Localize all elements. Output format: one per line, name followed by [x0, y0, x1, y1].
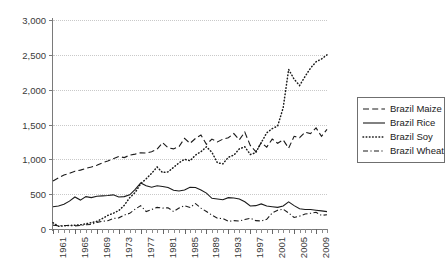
x-axis-tick [322, 229, 323, 233]
x-axis-tick [97, 229, 98, 234]
x-axis-tick [168, 229, 169, 233]
x-axis-tick [69, 229, 70, 233]
x-axis-tick [250, 229, 251, 234]
x-axis-tick [300, 229, 301, 233]
x-axis-tick [190, 229, 191, 233]
x-axis-tick [86, 229, 87, 233]
x-axis-tick [80, 229, 81, 233]
x-axis-tick [327, 229, 328, 233]
x-axis-tick [245, 229, 246, 233]
legend-item-brazil-wheat[interactable]: Brazil Wheat [362, 144, 441, 158]
x-axis-tick-label: 2005 [298, 237, 309, 258]
x-axis-tick [201, 229, 202, 233]
x-axis-tick [119, 229, 120, 234]
x-axis-tick [217, 229, 218, 233]
legend-swatch-dotted-icon [362, 132, 386, 142]
x-axis-tick [283, 229, 284, 233]
legend-item-brazil-rice[interactable]: Brazil Rice [362, 116, 441, 130]
x-axis-tick [179, 229, 180, 233]
x-axis-tick [234, 229, 235, 233]
legend-item-brazil-soy[interactable]: Brazil Soy [362, 130, 441, 144]
legend-label: Brazil Rice [390, 116, 435, 130]
x-axis-tick [305, 229, 306, 233]
series-container [53, 20, 327, 229]
plot-area: 1961196519691973197719811985198919931997… [53, 20, 327, 229]
x-axis-tick [102, 229, 103, 233]
x-axis-tick-label: 1997 [254, 237, 265, 258]
x-axis-tick [239, 229, 240, 233]
y-axis-tick-label: 3,000 [22, 15, 46, 26]
x-axis-tick [108, 229, 109, 233]
x-axis-tick [316, 229, 317, 234]
x-axis-tick [272, 229, 273, 234]
x-axis-tick-label: 1961 [57, 237, 68, 258]
chart-legend: Brazil MaizeBrazil RiceBrazil SoyBrazil … [357, 97, 445, 163]
series-line-brazil-maize [53, 128, 327, 181]
x-axis-tick [311, 229, 312, 233]
x-axis-tick-label: 1981 [167, 237, 178, 258]
legend-item-brazil-maize[interactable]: Brazil Maize [362, 102, 441, 116]
x-axis-tick [113, 229, 114, 233]
y-axis-tick-label: 500 [30, 189, 46, 200]
x-axis-tick [278, 229, 279, 233]
x-axis-tick [223, 229, 224, 233]
x-axis-tick [141, 229, 142, 234]
y-axis-tick-label: 2,500 [22, 49, 46, 60]
y-axis-tick-label: 1,500 [22, 119, 46, 130]
series-line-brazil-soy [53, 55, 327, 226]
x-axis-tick [185, 229, 186, 234]
legend-swatch-dash-dot-icon [362, 146, 386, 156]
x-axis-tick-label: 2001 [276, 237, 287, 258]
x-axis-tick [135, 229, 136, 233]
x-axis-tick [152, 229, 153, 233]
x-axis-tick [124, 229, 125, 233]
legend-label: Brazil Maize [390, 102, 442, 116]
x-axis-tick [91, 229, 92, 233]
x-axis-tick-label: 1993 [232, 237, 243, 258]
x-axis-tick [256, 229, 257, 233]
y-axis-tick-label: 0 [41, 224, 46, 235]
x-axis-tick [212, 229, 213, 233]
line-chart: 05001,0001,5002,0002,5003,000 1961196519… [0, 0, 447, 277]
legend-label: Brazil Wheat [390, 144, 444, 158]
x-axis-tick [75, 229, 76, 234]
x-axis-tick-label: 1973 [123, 237, 134, 258]
x-axis-tick [206, 229, 207, 234]
x-axis-tick [130, 229, 131, 233]
x-axis-tick [163, 229, 164, 234]
x-axis-tick [53, 229, 54, 234]
y-axis-tick-label: 1,000 [22, 154, 46, 165]
x-axis-tick-label: 1989 [210, 237, 221, 258]
x-axis-tick [294, 229, 295, 234]
legend-label: Brazil Soy [390, 130, 433, 144]
x-axis-tick-label: 1969 [101, 237, 112, 258]
x-axis-tick-label: 1965 [79, 237, 90, 258]
x-axis-tick-label: 1977 [145, 237, 156, 258]
x-axis-tick-label: 2009 [320, 237, 331, 258]
x-axis-tick [64, 229, 65, 233]
x-axis-tick-label: 1985 [189, 237, 200, 258]
legend-swatch-solid-icon [362, 118, 386, 128]
x-axis-tick [174, 229, 175, 233]
x-axis-tick [195, 229, 196, 233]
x-axis-tick [289, 229, 290, 233]
x-axis-tick [157, 229, 158, 233]
x-axis-tick [58, 229, 59, 233]
legend-swatch-dashed-icon [362, 104, 386, 114]
y-axis-tick-label: 2,000 [22, 84, 46, 95]
x-axis-tick [261, 229, 262, 233]
x-axis-tick [228, 229, 229, 234]
x-axis-tick [146, 229, 147, 233]
x-axis-tick [267, 229, 268, 233]
